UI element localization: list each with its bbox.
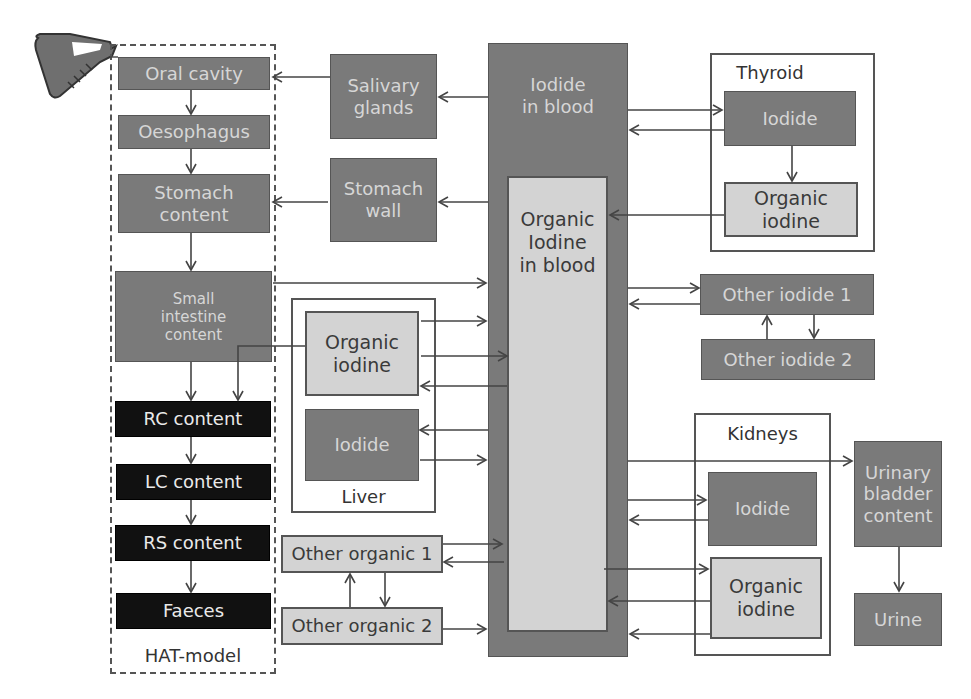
flow-arrows xyxy=(0,0,971,699)
